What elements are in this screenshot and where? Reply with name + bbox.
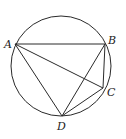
label-A: A xyxy=(3,38,12,51)
label-D: D xyxy=(56,120,66,133)
segment-AD xyxy=(15,44,62,116)
circle xyxy=(11,16,111,116)
label-C: C xyxy=(107,86,116,99)
geometry-diagram: A B C D xyxy=(0,0,126,139)
segment-AC xyxy=(15,44,103,88)
segment-BD xyxy=(62,44,105,116)
segment-CD xyxy=(62,88,103,116)
label-B: B xyxy=(107,34,116,47)
segment-BC xyxy=(103,44,105,88)
